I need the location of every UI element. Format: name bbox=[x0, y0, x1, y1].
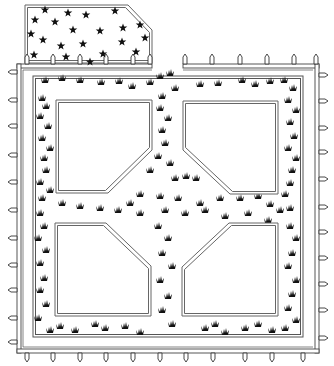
fence-post bbox=[238, 54, 242, 64]
grass-tuft bbox=[264, 216, 272, 223]
grass-tuft bbox=[164, 114, 172, 121]
garden-plan-diagram bbox=[0, 0, 334, 366]
fence-post bbox=[210, 54, 214, 64]
grass-tuft bbox=[101, 324, 109, 331]
grass-tuft bbox=[58, 74, 66, 81]
grass-tuft bbox=[161, 206, 169, 213]
grass-tuft bbox=[196, 80, 204, 87]
fence-post bbox=[8, 70, 17, 74]
fence-post bbox=[104, 353, 108, 362]
fence-post bbox=[8, 180, 17, 184]
grass-tuft bbox=[292, 316, 300, 323]
fence-post bbox=[319, 282, 328, 286]
grass-tuft bbox=[38, 194, 46, 201]
fence-post bbox=[131, 54, 135, 64]
grass-tuft bbox=[284, 304, 292, 311]
fence-post bbox=[301, 353, 305, 362]
plot-bottom-right bbox=[182, 223, 278, 316]
grass-tuft bbox=[251, 80, 259, 87]
plot-bottom-left-outline bbox=[55, 223, 151, 316]
grass-tuft bbox=[286, 179, 294, 186]
fence-post bbox=[265, 54, 269, 64]
fence-post bbox=[8, 340, 17, 344]
grass-tuft bbox=[289, 84, 297, 91]
grass-tuft bbox=[96, 204, 104, 211]
grass-tuft bbox=[288, 166, 296, 173]
grass-tuft bbox=[41, 76, 49, 83]
grass-tuft bbox=[97, 78, 105, 85]
grass-tuft bbox=[174, 194, 182, 201]
grass-tuft bbox=[266, 200, 274, 207]
grass-tuft bbox=[71, 326, 79, 333]
fence-top-right bbox=[183, 64, 319, 68]
grass-tuft bbox=[168, 320, 176, 327]
grass-tuft bbox=[156, 104, 164, 111]
grass-tuft bbox=[164, 292, 172, 299]
grass-tuft bbox=[91, 320, 99, 327]
grass-tuft bbox=[42, 166, 50, 173]
garden-plan-svg bbox=[0, 0, 334, 366]
grass-tuft bbox=[241, 324, 249, 331]
grass-tuft bbox=[290, 132, 298, 139]
grass-tuft bbox=[171, 84, 179, 91]
grass-tuft bbox=[76, 76, 84, 83]
grass-tuft bbox=[40, 274, 48, 281]
grass-tuft bbox=[36, 259, 44, 266]
grass-tuft bbox=[286, 204, 294, 211]
grass-tuft bbox=[292, 154, 300, 161]
grass-tuft bbox=[268, 326, 276, 333]
grass-tuft bbox=[36, 209, 44, 216]
grass-tuft bbox=[44, 122, 52, 129]
grass-tuft bbox=[158, 126, 166, 133]
grass-tuft bbox=[42, 102, 50, 109]
grass-tuft bbox=[288, 249, 296, 256]
grass-tuft bbox=[221, 212, 229, 219]
grass-tuft bbox=[196, 199, 204, 206]
grass-tuft bbox=[38, 134, 46, 141]
fence-post bbox=[78, 353, 82, 362]
grass-tuft bbox=[46, 326, 54, 333]
fence-post bbox=[158, 353, 162, 362]
grass-tuft bbox=[211, 320, 219, 327]
grass-tuft bbox=[284, 144, 292, 151]
grass-tuft bbox=[254, 320, 262, 327]
grass-tuft bbox=[221, 328, 229, 335]
grass-tuft bbox=[121, 322, 129, 329]
grass-tuft bbox=[36, 112, 44, 119]
grass-tuft bbox=[238, 76, 246, 83]
grass-tuft bbox=[158, 92, 166, 99]
grass-tuft bbox=[281, 190, 289, 197]
grass-tuft bbox=[292, 276, 300, 283]
grass-tuft bbox=[201, 324, 209, 331]
grass-tuft bbox=[76, 202, 84, 209]
grass-tuft bbox=[146, 78, 154, 85]
grass-tuft bbox=[56, 322, 64, 329]
grass-tuft bbox=[42, 300, 50, 307]
grass-tuft bbox=[58, 199, 66, 206]
grass-tuft bbox=[276, 206, 284, 213]
plot-bottom-right-outline bbox=[182, 223, 278, 316]
fence-post bbox=[292, 54, 296, 64]
grass-tuft bbox=[214, 79, 222, 86]
grass-tuft bbox=[126, 199, 134, 206]
grass-tuft bbox=[181, 209, 189, 216]
grass-tuft bbox=[286, 222, 294, 229]
grass-tuft bbox=[201, 206, 209, 213]
grass-tuft bbox=[36, 286, 44, 293]
fence-post bbox=[131, 353, 135, 362]
grass-tuft bbox=[288, 290, 296, 297]
fence-post bbox=[270, 353, 274, 362]
fence-post bbox=[8, 98, 17, 102]
grass-tuft bbox=[46, 144, 54, 151]
grass-tuft bbox=[156, 192, 164, 199]
grass-tuft bbox=[292, 234, 300, 241]
grass-tuft bbox=[280, 76, 288, 83]
grass-tuft bbox=[171, 174, 179, 181]
fence-post bbox=[8, 153, 17, 157]
fence-post bbox=[51, 353, 55, 362]
fence-post bbox=[8, 263, 17, 267]
grass-tuft bbox=[182, 172, 190, 179]
fence-post bbox=[8, 288, 17, 292]
fence-post bbox=[319, 99, 328, 103]
fence-post bbox=[319, 150, 328, 154]
